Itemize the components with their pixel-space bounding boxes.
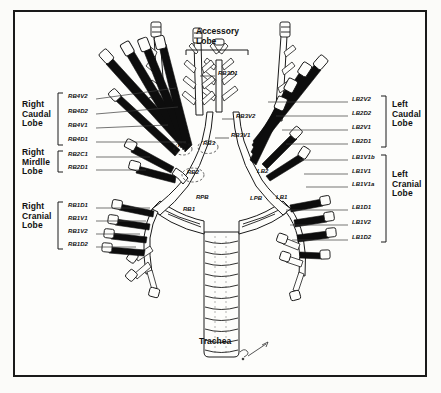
segment-label-rb1d1: RB1D1	[68, 202, 88, 208]
airway-label-rb1: RB1	[183, 206, 195, 212]
segment-label-lb1v1a: LB1V1a	[352, 181, 374, 187]
airway-label-lb2: LB2	[257, 168, 268, 174]
segment-label-rb4v1: RB4V1	[68, 122, 88, 128]
airway-label-rb3d1: RB3D1	[218, 70, 238, 76]
right-cranial-segments	[102, 199, 160, 298]
airway-label-rb3: RB3	[203, 140, 215, 146]
segment-label-lb2d1: LB2D1	[352, 138, 371, 144]
lobe-title-right-cranial: Right Cranial Lobe	[22, 202, 52, 231]
segment-label-rb1v2: RB1V2	[68, 228, 88, 234]
airway-label-lpb: LPB	[250, 195, 262, 201]
airway-label-rb3v2: RB3V2	[236, 113, 255, 119]
segment-label-lb2d2: LB2D2	[352, 110, 371, 116]
trachea-label: Trachea	[199, 336, 231, 346]
airway-label-rb3v1: RB3V1	[231, 132, 250, 138]
lobe-title-right-caudal: Right Caudal Lobe	[22, 100, 51, 129]
airway-label-rpb: RPB	[196, 194, 209, 200]
segment-label-lb1d2: LB1D2	[352, 234, 371, 240]
segment-label-lb1v2: LB1V2	[352, 219, 371, 225]
lobe-title-left-cranial: Left Cranial Lobe	[392, 170, 422, 199]
airway-label-lb1: LB1	[276, 194, 287, 200]
bronchial-tree-artwork: .ol { fill:#fdfdfb; stroke:#1a1a1a; stro…	[0, 0, 441, 393]
carina	[152, 201, 291, 234]
segment-label-rb4d2: RB4D2	[68, 108, 88, 114]
lobe-title-accessory: Accessory Lobe	[196, 27, 239, 46]
lobe-title-right-middle: Right Mirdlle Lobe	[22, 148, 50, 177]
right-caudal-segments	[98, 35, 192, 156]
segment-label-rb2c1: RB2C1	[68, 151, 88, 157]
segment-label-rb1v1: RB1V1	[68, 215, 88, 221]
segment-label-rb4d1: RB4D1	[68, 136, 88, 142]
segment-label-lb1d1: LB1D1	[352, 204, 371, 210]
lobe-title-left-caudal: Left Caudal Lobe	[392, 100, 421, 129]
segment-label-lb1v1b: LB1V1b	[352, 154, 375, 160]
segment-label-rb1d2: RB1D2	[68, 241, 88, 247]
segment-label-rb4v2: RB4V2	[68, 93, 88, 99]
artist-signature	[240, 342, 268, 360]
segment-label-lb1v1: LB1V1	[352, 168, 371, 174]
airway-label-rb4: RB4	[178, 142, 190, 148]
segment-label-lb2v2: LB2V2	[352, 96, 371, 102]
segment-label-lb2v1: LB2V1	[352, 124, 371, 130]
segment-label-rb2d1: RB2D1	[68, 164, 88, 170]
airway-label-rb2: RB2	[187, 169, 199, 175]
left-caudal-segments	[250, 54, 329, 181]
bronchial-tree-figure: .ol { fill:#fdfdfb; stroke:#1a1a1a; stro…	[0, 0, 441, 393]
